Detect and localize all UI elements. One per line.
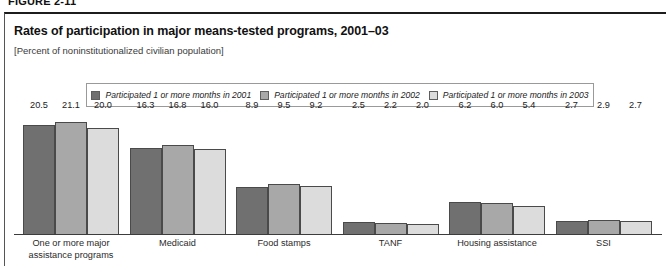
legend-swatch-icon	[260, 91, 269, 100]
bar-value-label: 6.2	[459, 100, 472, 110]
bar-group-bars: 20.521.120.0	[23, 112, 119, 235]
bar-value-label: 2.5	[352, 100, 365, 110]
chart-legend: Participated 1 or more months in 2001Par…	[86, 83, 594, 107]
bar[interactable]: 2.2	[375, 112, 407, 235]
bar[interactable]: 6.0	[481, 112, 513, 235]
legend-item[interactable]: Participated 1 or more months in 2002	[260, 90, 420, 100]
figure-number-label: FIGURE 2-11	[8, 0, 76, 7]
bar-value-label: 20.0	[94, 100, 112, 110]
bar-value-label: 5.4	[523, 100, 536, 110]
bar-rect	[87, 128, 119, 235]
figure-container: FIGURE 2-11 Rates of participation in ma…	[0, 0, 666, 266]
bar-value-label: 21.1	[62, 100, 80, 110]
bar-value-label: 20.5	[30, 100, 48, 110]
plot-area: 20.521.120.016.316.816.08.99.59.22.52.22…	[14, 112, 662, 235]
bar-rect	[588, 220, 620, 236]
bar-value-label: 16.0	[201, 100, 219, 110]
bar-group-bars: 6.26.05.4	[449, 112, 545, 235]
x-axis-baseline	[14, 234, 662, 235]
bar[interactable]: 16.8	[162, 112, 194, 235]
bar-rect	[268, 184, 300, 235]
bar[interactable]: 9.2	[300, 112, 332, 235]
bar[interactable]: 5.4	[513, 112, 545, 235]
legend-item[interactable]: Participated 1 or more months in 2001	[91, 90, 251, 100]
bar-rect	[194, 149, 226, 235]
bar-group-bars: 2.72.92.7	[556, 112, 652, 235]
bar-group-bars: 16.316.816.0	[130, 112, 226, 235]
bar[interactable]: 6.2	[449, 112, 481, 235]
bar-rect	[449, 202, 481, 235]
bar-rect	[556, 221, 588, 235]
bar[interactable]: 2.5	[343, 112, 375, 235]
bar-group-bars: 8.99.59.2	[236, 112, 332, 235]
bar-value-label: 2.7	[565, 100, 578, 110]
bar-value-label: 9.2	[310, 100, 323, 110]
bar[interactable]: 2.0	[407, 112, 439, 235]
bar[interactable]: 2.9	[588, 112, 620, 235]
bar-rect	[481, 203, 513, 235]
legend-item-label: Participated 1 or more months in 2002	[274, 90, 420, 100]
bar-group: 20.521.120.0	[23, 112, 119, 235]
legend-item-label: Participated 1 or more months in 2001	[105, 90, 251, 100]
bar-rect	[236, 187, 268, 235]
bar-group: 6.26.05.4	[449, 112, 545, 235]
bar[interactable]: 16.3	[130, 112, 162, 235]
bar-group: 16.316.816.0	[130, 112, 226, 235]
legend-item[interactable]: Participated 1 or more months in 2003	[429, 90, 589, 100]
bar-value-label: 16.3	[137, 100, 155, 110]
x-axis-category-label: SSI	[534, 238, 666, 250]
legend-swatch-icon	[429, 91, 438, 100]
bar-rect	[162, 145, 194, 235]
bar[interactable]: 9.5	[268, 112, 300, 235]
bar-rect	[513, 206, 545, 235]
bar[interactable]: 20.0	[87, 112, 119, 235]
bar-value-label: 16.8	[169, 100, 187, 110]
bar[interactable]: 16.0	[194, 112, 226, 235]
bar-value-label: 9.5	[278, 100, 291, 110]
bar-group-bars: 2.52.22.0	[343, 112, 439, 235]
bar[interactable]: 2.7	[620, 112, 652, 235]
chart-subtitle: [Percent of noninstitutionalized civilia…	[14, 45, 224, 56]
bar-rect	[23, 125, 55, 235]
bar[interactable]: 20.5	[23, 112, 55, 235]
bar-group: 2.52.22.0	[343, 112, 439, 235]
bar-group: 8.99.59.2	[236, 112, 332, 235]
bar-value-label: 2.9	[597, 100, 610, 110]
bar-value-label: 6.0	[491, 100, 504, 110]
legend-swatch-icon	[91, 91, 100, 100]
bar-rect	[55, 122, 87, 235]
bar-group: 2.72.92.7	[556, 112, 652, 235]
legend-item-label: Participated 1 or more months in 2003	[443, 90, 589, 100]
bar-value-label: 2.7	[629, 100, 642, 110]
chart-title: Rates of participation in major means-te…	[14, 24, 388, 38]
bar-value-label: 2.0	[416, 100, 429, 110]
bar[interactable]: 2.7	[556, 112, 588, 235]
bar-rect	[343, 222, 375, 235]
bar[interactable]: 8.9	[236, 112, 268, 235]
bar-value-label: 2.2	[384, 100, 397, 110]
bar-rect	[300, 186, 332, 235]
bar-rect	[130, 148, 162, 235]
bar-rect	[620, 221, 652, 235]
bar[interactable]: 21.1	[55, 112, 87, 235]
bar-value-label: 8.9	[246, 100, 259, 110]
